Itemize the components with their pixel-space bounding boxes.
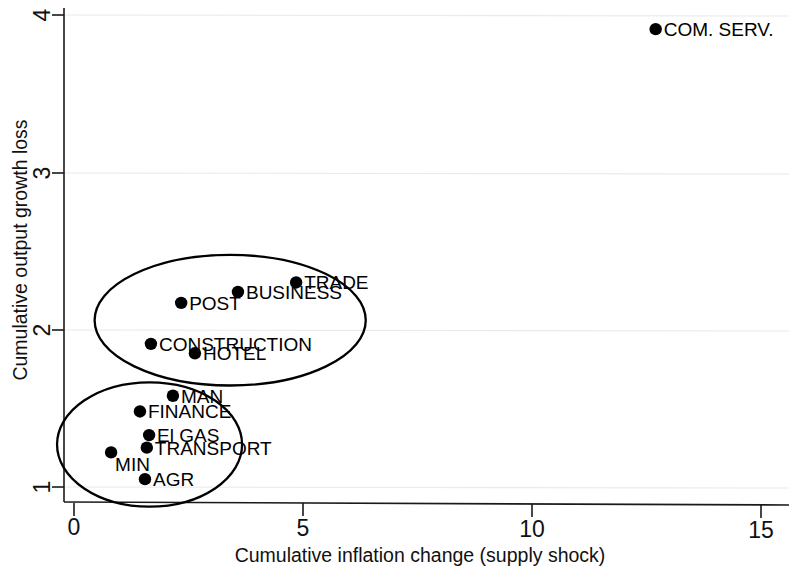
data-point[interactable]: BUSINESS <box>232 282 342 303</box>
point-marker[interactable] <box>145 338 157 350</box>
point-label: BUSINESS <box>246 282 342 303</box>
point-marker[interactable] <box>134 405 146 417</box>
gridline-y4 <box>64 15 789 16</box>
y-axis: 4 3 2 1 Cumulative output growth loss <box>9 8 64 502</box>
point-label: FINANCE <box>148 401 231 422</box>
data-point[interactable]: POST <box>175 293 241 314</box>
y-tick-label-3: 3 <box>29 167 55 180</box>
point-marker[interactable] <box>649 23 661 35</box>
point-marker[interactable] <box>139 473 151 485</box>
point-label: HOTEL <box>203 343 266 364</box>
gridline-y3 <box>64 173 789 174</box>
point-marker[interactable] <box>167 390 179 402</box>
data-point[interactable]: COM. SERV. <box>649 19 773 40</box>
x-tick-label-10: 10 <box>519 516 545 542</box>
point-marker[interactable] <box>189 347 201 359</box>
x-axis-title: Cumulative inflation change (supply shoc… <box>235 544 606 566</box>
y-axis-title: Cumulative output growth loss <box>9 119 31 380</box>
point-label: AGR <box>153 469 194 490</box>
data-point[interactable]: TRANSPORT <box>141 438 272 459</box>
point-label: COM. SERV. <box>664 19 774 40</box>
x-tick-label-15: 15 <box>748 517 774 543</box>
y-tick-label-1: 1 <box>29 481 55 494</box>
scatter-plot-figure: 4 3 2 1 Cumulative output growth loss 0 … <box>0 0 790 570</box>
data-points: COM. SERV. TRADE BUSINESS POST CONSTRUCT… <box>105 19 774 490</box>
point-label: POST <box>189 293 241 314</box>
point-marker[interactable] <box>141 441 153 453</box>
gridline-y2 <box>64 330 789 331</box>
point-marker[interactable] <box>175 297 187 309</box>
point-label: MIN <box>115 454 150 475</box>
data-point[interactable]: FINANCE <box>134 401 232 422</box>
y-tick-label-2: 2 <box>29 324 55 337</box>
point-marker[interactable] <box>143 429 155 441</box>
point-label: TRANSPORT <box>155 438 272 459</box>
y-tick-label-4: 4 <box>29 8 55 21</box>
x-axis: 0 5 10 15 Cumulative inflation change (s… <box>64 502 789 566</box>
x-tick-label-0: 0 <box>68 514 81 540</box>
x-tick-label-5: 5 <box>297 515 310 541</box>
plot-canvas: 4 3 2 1 Cumulative output growth loss 0 … <box>0 0 790 570</box>
